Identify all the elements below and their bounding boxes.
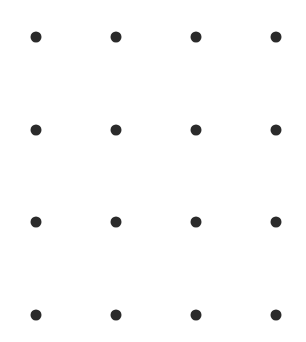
dot-r1-c4: [271, 32, 282, 43]
dot-grid: [0, 0, 306, 342]
dot-r4-c2: [111, 310, 122, 321]
dot-r2-c3: [191, 125, 202, 136]
dot-r3-c2: [111, 217, 122, 228]
dot-r4-c1: [31, 310, 42, 321]
dot-r3-c4: [271, 217, 282, 228]
dot-r2-c1: [31, 125, 42, 136]
dot-r4-c4: [271, 310, 282, 321]
dot-r3-c3: [191, 217, 202, 228]
dot-r1-c3: [191, 32, 202, 43]
dot-r2-c4: [271, 125, 282, 136]
dot-r2-c2: [111, 125, 122, 136]
dot-r3-c1: [31, 217, 42, 228]
dot-r1-c1: [31, 32, 42, 43]
dot-r1-c2: [111, 32, 122, 43]
dot-r4-c3: [191, 310, 202, 321]
